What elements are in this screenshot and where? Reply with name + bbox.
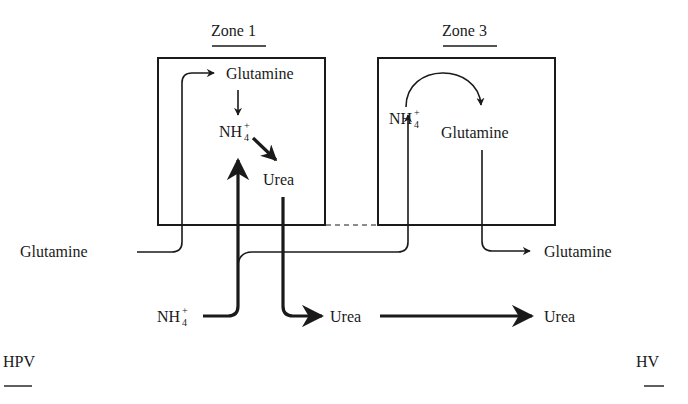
glutamine-release-path bbox=[482, 150, 530, 251]
zone-3-box bbox=[378, 58, 555, 225]
svg-text:NH: NH bbox=[389, 110, 413, 127]
liver-zonation-diagram: Zone 1 Zone 3 Glutamine NH + 4 Urea Glut… bbox=[0, 0, 688, 404]
svg-text:+: + bbox=[244, 120, 250, 131]
zone-3-glutamine-label: Glutamine bbox=[441, 124, 509, 141]
zone-1-box bbox=[158, 58, 325, 225]
hepatic-vein-label: HV bbox=[636, 353, 660, 370]
ammonium-to-glutamine-curved-arrow bbox=[406, 73, 481, 107]
urea-mid-label: Urea bbox=[330, 308, 361, 325]
ammonium-input-label: NH + 4 bbox=[157, 305, 188, 328]
urea-output-label: Urea bbox=[544, 308, 575, 325]
svg-text:+: + bbox=[182, 305, 188, 316]
svg-text:4: 4 bbox=[182, 317, 187, 328]
glutamine-output-label: Glutamine bbox=[544, 243, 612, 260]
ammonium-bypass-to-zone-3-path bbox=[238, 115, 408, 264]
ammonium-uptake-path bbox=[203, 160, 238, 316]
svg-text:4: 4 bbox=[414, 119, 419, 130]
svg-text:NH: NH bbox=[219, 123, 243, 140]
zone-3-ammonium-label: NH + 4 bbox=[389, 107, 420, 130]
zone-1-glutamine-label: Glutamine bbox=[226, 65, 294, 82]
urea-output-path bbox=[283, 197, 322, 316]
zone-3-title: Zone 3 bbox=[442, 22, 487, 39]
zone-1-urea-label: Urea bbox=[263, 171, 294, 188]
zone-1-ammonium-label: NH + 4 bbox=[219, 120, 250, 143]
ammonium-to-urea-arrow bbox=[253, 138, 276, 160]
svg-text:NH: NH bbox=[157, 308, 181, 325]
svg-text:+: + bbox=[414, 107, 420, 118]
glutamine-input-label: Glutamine bbox=[20, 243, 88, 260]
svg-text:4: 4 bbox=[244, 132, 249, 143]
zone-1-title: Zone 1 bbox=[211, 22, 256, 39]
hepatic-portal-vein-label: HPV bbox=[3, 353, 35, 370]
